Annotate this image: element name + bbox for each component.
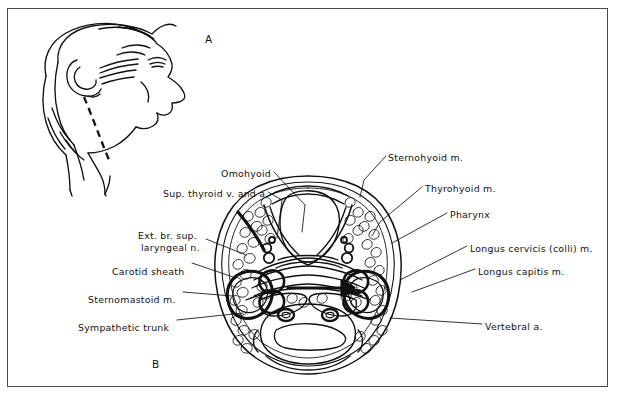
label-sternomastoid: Sternomastoid m. (88, 294, 176, 305)
panel-letter-a: A (205, 33, 213, 45)
label-longus-capitis: Longus capitis m. (478, 266, 564, 277)
label-sternohyoid: Sternohyoid m. (388, 152, 463, 163)
label-longus-cervicis: Longus cervicis (colli) m. (470, 243, 593, 254)
label-omohyoid: Omohyoid (221, 168, 271, 179)
label-thyrohyoid: Thyrohyoid m. (425, 183, 496, 194)
ext-br-sup-laryngeal-nerve (238, 212, 264, 250)
leader-lines-right (360, 156, 482, 324)
label-ext-br-sup-line1: Ext. br. sup. (138, 230, 197, 241)
label-ext-br-sup-line2: laryngeal n. (141, 242, 200, 253)
anatomy-figure: A B Omohyoid Sup. thyroid v. and a. Ext.… (0, 0, 617, 396)
label-pharynx: Pharynx (450, 209, 490, 220)
neck-cross-section (215, 176, 401, 374)
label-vertebral-artery: Vertebral a. (485, 321, 543, 332)
label-carotid-sheath: Carotid sheath (112, 266, 184, 277)
label-sympathetic-trunk: Sympathetic trunk (78, 322, 169, 333)
right-superior-thyroid-vessels (341, 237, 353, 263)
head-profile-drawing (43, 23, 185, 196)
panel-letter-b: B (152, 358, 160, 370)
label-sup-thyroid-vessels: Sup. thyroid v. and a. (163, 188, 269, 199)
figure-artwork (0, 0, 617, 396)
